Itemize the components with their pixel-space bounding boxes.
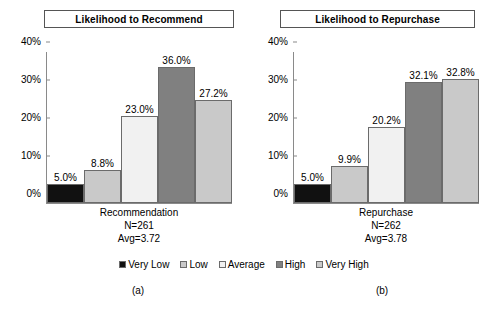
bar-slot-average-b: 20.2%	[368, 52, 405, 203]
y-tick-label-0-a: 0%	[27, 188, 41, 199]
bar-slot-very-high-a: 27.2%	[195, 52, 232, 203]
legend-label-low: Low	[189, 259, 207, 270]
chart-title-a: Likelihood to Recommend	[75, 14, 202, 25]
bar-average-a[interactable]	[121, 116, 158, 203]
bar-group-a: 5.0% 8.8% 23.0% 36.0%	[47, 52, 232, 203]
bar-value-label-high-a: 36.0%	[162, 55, 190, 66]
y-tick-20-a: 20%	[21, 112, 46, 123]
legend-item-very-high[interactable]: Very High	[316, 259, 368, 270]
legend-item-high[interactable]: High	[276, 259, 306, 270]
y-tick-40-a: 40%	[21, 36, 46, 47]
bar-very-high-b[interactable]	[442, 79, 479, 203]
bar-low-a[interactable]	[84, 170, 121, 203]
sample-size-b: N=262	[293, 219, 479, 232]
legend-swatch-very-high-icon	[316, 261, 323, 268]
x-axis-label-b: Repurchase	[293, 206, 479, 219]
bar-high-b[interactable]	[405, 82, 442, 203]
x-axis-label-a: Recommendation	[46, 206, 232, 219]
chart-title-b: Likelihood to Repurchase	[315, 14, 440, 25]
x-axis-line-b	[293, 203, 479, 204]
y-tick-label-30-b: 30%	[268, 74, 288, 85]
y-tick-label-40-b: 40%	[268, 36, 288, 47]
y-tick-label-20-b: 20%	[268, 112, 288, 123]
legend-label-very-low: Very Low	[128, 259, 169, 270]
figure-root: Likelihood to Recommend 0% 10% 20% 30% 4…	[0, 0, 488, 313]
legend-label-very-high: Very High	[325, 259, 368, 270]
y-tick-label-40-a: 40%	[21, 36, 41, 47]
bar-slot-very-low-b: 5.0%	[294, 52, 331, 203]
bar-very-low-a[interactable]	[47, 184, 84, 203]
y-tick-20-b: 20%	[268, 112, 293, 123]
bar-slot-very-low-a: 5.0%	[47, 52, 84, 203]
chart-title-box-b: Likelihood to Repurchase	[280, 10, 475, 28]
legend-label-average: Average	[228, 259, 265, 270]
legend-swatch-low-icon	[180, 261, 187, 268]
average-value-a: Avg=3.72	[46, 232, 232, 245]
subfigure-caption-b: (b)	[362, 285, 402, 296]
bar-value-label-average-b: 20.2%	[372, 115, 400, 126]
bar-group-b: 5.0% 9.9% 20.2% 32.1%	[294, 52, 479, 203]
panels-container: Likelihood to Recommend 0% 10% 20% 30% 4…	[0, 0, 488, 250]
average-value-b: Avg=3.78	[293, 232, 479, 245]
bar-slot-very-high-b: 32.8%	[442, 52, 479, 203]
chart-panel-repurchase: Likelihood to Repurchase 0% 10% 20% 30% …	[244, 0, 488, 250]
legend-item-average[interactable]: Average	[219, 259, 265, 270]
subfigure-captions: (a) (b)	[0, 285, 488, 301]
plot-area-a: 0% 10% 20% 30% 40% 5.0% 8.8% 23.0%	[46, 52, 232, 204]
bar-value-label-high-b: 32.1%	[409, 70, 437, 81]
bar-low-b[interactable]	[331, 166, 368, 203]
y-tick-label-10-a: 10%	[21, 150, 41, 161]
bar-very-low-b[interactable]	[294, 184, 331, 203]
y-tick-40-b: 40%	[268, 36, 293, 47]
bar-slot-average-a: 23.0%	[121, 52, 158, 203]
x-axis-caption-a: Recommendation N=261 Avg=3.72	[46, 206, 232, 245]
legend-swatch-high-icon	[276, 261, 283, 268]
legend-label-high: High	[285, 259, 306, 270]
chart-title-box-a: Likelihood to Recommend	[44, 10, 234, 28]
bar-value-label-low-a: 8.8%	[91, 158, 114, 169]
chart-panel-recommend: Likelihood to Recommend 0% 10% 20% 30% 4…	[0, 0, 244, 250]
y-tickmark-40-b	[293, 41, 297, 42]
bar-value-label-very-low-a: 5.0%	[54, 172, 77, 183]
bar-slot-high-a: 36.0%	[158, 52, 195, 203]
plot-area-b: 0% 10% 20% 30% 40% 5.0% 9.9% 20.2%	[293, 52, 479, 204]
y-tick-label-20-a: 20%	[21, 112, 41, 123]
bar-very-high-a[interactable]	[195, 100, 232, 203]
bar-value-label-very-high-b: 32.8%	[446, 67, 474, 78]
subfigure-caption-a: (a)	[118, 285, 158, 296]
bar-slot-high-b: 32.1%	[405, 52, 442, 203]
legend-swatch-very-low-icon	[119, 261, 126, 268]
y-tick-0-b: 0%	[274, 188, 293, 199]
legend-swatch-average-icon	[219, 261, 226, 268]
y-tick-30-b: 30%	[268, 74, 293, 85]
x-axis-caption-b: Repurchase N=262 Avg=3.78	[293, 206, 479, 245]
y-tick-label-0-b: 0%	[274, 188, 288, 199]
bar-value-label-very-low-b: 5.0%	[301, 172, 324, 183]
bar-value-label-very-high-a: 27.2%	[199, 88, 227, 99]
bar-value-label-average-a: 23.0%	[125, 104, 153, 115]
bar-value-label-low-b: 9.9%	[338, 154, 361, 165]
bar-slot-low-b: 9.9%	[331, 52, 368, 203]
sample-size-a: N=261	[46, 219, 232, 232]
y-tick-10-a: 10%	[21, 150, 46, 161]
y-tick-0-a: 0%	[27, 188, 46, 199]
y-tick-10-b: 10%	[268, 150, 293, 161]
bar-average-b[interactable]	[368, 127, 405, 203]
chart-legend: Very Low Low Average High Very High	[0, 259, 488, 270]
y-tick-30-a: 30%	[21, 74, 46, 85]
x-axis-line-a	[46, 203, 232, 204]
bar-slot-low-a: 8.8%	[84, 52, 121, 203]
y-tick-label-30-a: 30%	[21, 74, 41, 85]
legend-item-low[interactable]: Low	[180, 259, 207, 270]
y-tickmark-40-a	[46, 41, 50, 42]
bar-high-a[interactable]	[158, 67, 195, 203]
y-tick-label-10-b: 10%	[268, 150, 288, 161]
legend-item-very-low[interactable]: Very Low	[119, 259, 169, 270]
